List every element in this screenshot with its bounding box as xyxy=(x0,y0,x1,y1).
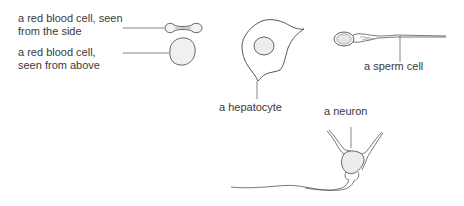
rbc-side-label: a red blood cell, seen from the side xyxy=(18,12,123,37)
rbc-above-label: a red blood cell, seen from above xyxy=(18,46,100,71)
hepatocyte-label: a hepatocyte xyxy=(219,101,282,114)
neuron-drawing xyxy=(231,127,383,190)
rbc-above-label-line2: seen from above xyxy=(18,59,100,72)
sperm-drawing xyxy=(334,32,446,62)
hepatocyte-drawing xyxy=(242,20,304,99)
sperm-label: a sperm cell xyxy=(364,60,423,73)
neuron-label: a neuron xyxy=(324,105,367,118)
rbc-side-label-line1: a red blood cell, seen xyxy=(18,12,123,25)
rbc-above-label-line1: a red blood cell, xyxy=(18,46,100,59)
rbc-above-drawing xyxy=(123,38,195,65)
rbc-side-drawing xyxy=(123,23,202,32)
rbc-side-label-line2: from the side xyxy=(18,25,123,38)
